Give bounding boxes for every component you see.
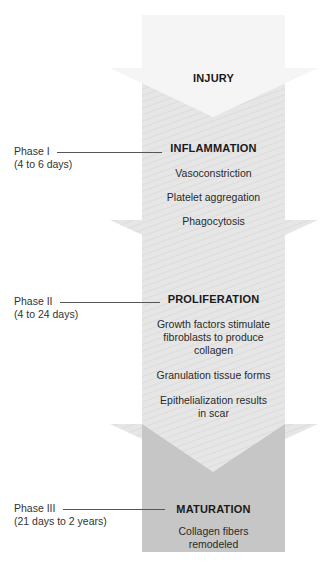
stage-item: Collagen fibers remodeled — [165, 525, 262, 551]
phase-label: Phase I — [14, 145, 50, 158]
stage-title-inflammation: INFLAMMATION — [142, 142, 285, 154]
leader-line — [63, 509, 165, 510]
phase-label: Phase III — [14, 502, 55, 515]
stage-title-proliferation: PROLIFERATION — [142, 293, 285, 305]
stage-title-injury: INJURY — [142, 72, 285, 84]
injury-arrow — [110, 15, 318, 117]
stage-item: Growth factors stimulate fibroblasts to … — [150, 318, 277, 357]
stage-item: Epithelialization results in scar — [158, 394, 269, 420]
leader-line — [57, 152, 162, 153]
stage-item: Phagocytosis — [142, 215, 285, 228]
phase-label: Phase II — [14, 295, 53, 308]
stage-item: Granulation tissue forms — [142, 369, 285, 382]
stage-item: Vasoconstriction — [142, 167, 285, 180]
phase-duration: (4 to 24 days) — [14, 308, 78, 321]
leader-line — [60, 302, 160, 303]
flow-arrows — [0, 0, 331, 565]
stage-item: Platelet aggregation — [142, 191, 285, 204]
phase-duration: (4 to 6 days) — [14, 158, 72, 171]
phase-duration: (21 days to 2 years) — [14, 515, 107, 528]
